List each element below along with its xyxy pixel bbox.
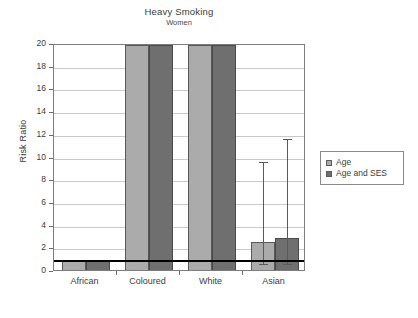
chart-title: Heavy Smoking [53,6,305,18]
y-axis-tick-label: 2 [18,243,46,252]
y-axis-tick-label: 6 [18,198,46,207]
error-bar-cap [283,139,292,140]
y-axis-tick-label: 4 [18,221,46,230]
legend-item: Age [326,157,399,168]
legend-item-label: Age [336,157,351,168]
bar [212,45,236,271]
x-axis-tick [179,271,180,275]
chart-figure: Heavy Smoking Women Risk Ratio 024681012… [0,0,418,318]
legend-swatch-icon [326,160,332,166]
y-axis-tick [49,271,53,272]
y-axis-tick-label: 16 [18,84,46,93]
error-bar-line [263,162,264,264]
y-axis-tick-label: 0 [18,266,46,275]
x-axis-tick [242,271,243,275]
error-bar-cap [283,264,292,265]
error-bar-cap [259,264,268,265]
legend: Age Age and SES [320,151,404,185]
x-axis-tick [116,271,117,275]
bar [149,45,173,271]
y-axis-tick-label: 8 [18,175,46,184]
title-block: Heavy Smoking Women [53,6,305,28]
y-axis-tick-label: 10 [18,153,46,162]
bar [125,45,149,271]
gridline [54,90,304,91]
gridline [54,159,304,160]
reference-line [54,260,304,262]
x-axis-tick-label: Asian [234,276,314,287]
y-axis-tick-label: 20 [18,39,46,48]
legend-swatch-icon [326,171,332,177]
plot-area [53,44,305,271]
gridline [54,227,304,228]
chart-subtitle: Women [53,18,305,28]
gridline [54,136,304,137]
gridline [54,181,304,182]
legend-item: Age and SES [326,168,399,179]
gridline [54,113,304,114]
bar [86,261,110,271]
y-axis-tick-label: 18 [18,62,46,71]
y-axis-tick-label: 14 [18,107,46,116]
legend-item-label: Age and SES [336,168,387,179]
bar [188,45,212,271]
error-bar-line [287,139,288,264]
y-axis-tick-label: 12 [18,130,46,139]
bar [62,261,86,271]
gridline [54,204,304,205]
error-bar-cap [259,162,268,163]
gridline [54,68,304,69]
